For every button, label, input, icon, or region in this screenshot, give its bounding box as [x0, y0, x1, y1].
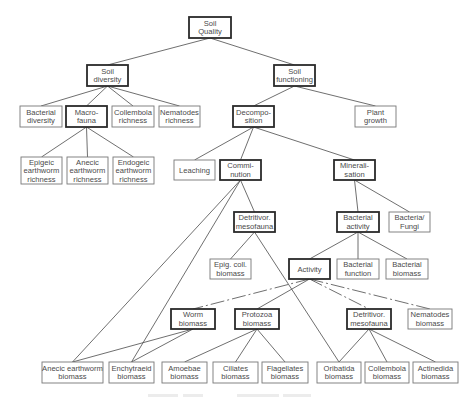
edge-soil-quality-to-soil-diversity — [108, 38, 211, 65]
node-macro-fauna: Macro-fauna — [66, 106, 107, 127]
node-collembola-richness: Collembolarichness — [112, 106, 154, 127]
node-leaching: Leaching — [174, 160, 215, 180]
node-epigeic-richness: Epigeicearthwormrichness — [21, 157, 62, 184]
node-bacterial-activity: Bacterialactivity — [337, 212, 379, 232]
edge-activity-to-detritivor-mesofauna-lower — [310, 279, 370, 309]
node-decomposition: Decompo-sition — [233, 106, 274, 127]
caption-text-illegible — [183, 394, 203, 397]
figure-caption — [148, 394, 311, 397]
soil-quality-diagram: SoilQualitySoildiversitySoilfunctioningB… — [0, 0, 474, 400]
node-label: fauna — [77, 116, 97, 125]
node-epig-coll-biomass: Epig. coll.biomass — [210, 259, 251, 279]
edge-macro-fauna-to-endogeic-richness — [87, 127, 134, 157]
node-enchytraeid-biomass: Enchytraeidbiomass — [109, 362, 154, 383]
node-label: mesofauna — [236, 222, 274, 231]
node-label: mesofauna — [350, 319, 388, 328]
edge-worm-biomass-to-enchytraeid-biomass — [132, 329, 194, 362]
edge-detritivor-mesofauna-upper-to-epig-coll-biomass — [231, 232, 255, 259]
node-worm-biomass: Wormbiomass — [171, 309, 215, 329]
node-label: biomass — [58, 372, 86, 381]
node-label: biomass — [271, 372, 299, 381]
node-soil-quality: SoilQuality — [189, 17, 231, 38]
node-layer: SoilQualitySoildiversitySoilfunctioningB… — [20, 17, 458, 383]
node-bacterial-biomass: Bacterialbiomass — [386, 259, 428, 279]
node-nematodes-richness: Nematodesrichness — [159, 106, 200, 127]
edge-detritivor-mesofauna-lower-to-oribatida-biomass — [339, 329, 369, 362]
node-nematodes-biomass: Nematodesbiomass — [408, 309, 452, 329]
node-label: richness — [119, 116, 147, 125]
edge-decomposition-to-leaching — [195, 127, 254, 160]
node-detritivor-mesofauna-lower: Detritivor.mesofauna — [347, 309, 391, 329]
edge-decomposition-to-comminution — [241, 127, 254, 160]
node-label: functioning — [276, 75, 313, 84]
node-plant-growth: Plantgrowth — [355, 106, 396, 127]
node-label: growth — [364, 116, 387, 125]
node-label: Activity — [297, 265, 321, 274]
edge-soil-diversity-to-nematodes-richness — [108, 86, 180, 106]
edge-activity-to-worm-biomass — [193, 279, 310, 309]
node-label: diversity — [27, 116, 55, 125]
node-mineralisation: Minerali-sation — [334, 160, 375, 180]
node-protozoa-biomass: Protozoabiomass — [235, 309, 279, 329]
edge-soil-functioning-to-plant-growth — [295, 86, 376, 106]
node-flagellates-biomass: Flagellatesbiomass — [262, 362, 308, 383]
edge-macro-fauna-to-epigeic-richness — [42, 127, 87, 157]
node-label: diversity — [94, 75, 122, 84]
edge-bacterial-activity-to-bacterial-biomass — [358, 232, 407, 259]
node-label: biomass — [179, 319, 207, 328]
edge-protozoa-biomass-to-flagellates-biomass — [257, 329, 285, 362]
node-actinedida-biomass: Actinedidabiomass — [413, 362, 458, 383]
node-label: biomass — [393, 269, 421, 278]
caption-text-illegible — [148, 394, 178, 397]
edge-detritivor-mesofauna-lower-to-collembola-biomass — [369, 329, 387, 362]
node-label: function — [345, 269, 372, 278]
edge-detritivor-mesofauna-upper-to-oribatida-biomass — [255, 232, 340, 362]
node-label: Leaching — [179, 166, 210, 175]
edge-soil-diversity-to-collembola-richness — [108, 86, 134, 106]
node-label: sation — [344, 170, 364, 179]
node-label: biomass — [325, 372, 353, 381]
node-label: nution — [230, 170, 251, 179]
node-label: biomass — [421, 372, 449, 381]
node-label: biomass — [416, 319, 444, 328]
node-label: Quality — [198, 27, 222, 36]
node-bacterial-function: Bacterialfunction — [337, 259, 379, 279]
caption-text-illegible — [283, 394, 311, 397]
node-soil-diversity: Soildiversity — [87, 65, 128, 86]
node-label: biomass — [221, 372, 249, 381]
node-label: activity — [346, 222, 369, 231]
node-label: sition — [245, 116, 263, 125]
edge-mineralisation-to-bacterial-activity — [355, 180, 359, 212]
node-label: biomass — [117, 372, 145, 381]
node-oribatida-biomass: Oribatidabiomass — [317, 362, 361, 383]
node-amoebae-biomass: Amoebaebiomass — [162, 362, 207, 383]
edge-activity-to-nematodes-biomass — [310, 279, 431, 309]
node-bacterial-diversity: Bacterialdiversity — [20, 106, 62, 127]
node-activity: Activity — [289, 259, 330, 279]
node-anecic-richness: Anecicearthwormrichness — [67, 157, 108, 184]
node-collembola-biomass: Collembolabiomass — [365, 362, 409, 383]
edge-bacterial-activity-to-activity — [310, 232, 359, 259]
node-endogeic-richness: Endogeicearthwormrichness — [113, 157, 154, 184]
node-label: Fungi — [400, 222, 419, 231]
node-ciliates-biomass: Ciliatesbiomass — [213, 362, 258, 383]
edge-worm-biomass-to-anecic-earthworm-biomass — [73, 329, 194, 362]
node-comminution: Commi-nution — [220, 160, 261, 180]
caption-text-illegible — [237, 394, 279, 397]
node-label: richness — [27, 175, 55, 184]
node-label: biomass — [243, 319, 271, 328]
edge-soil-functioning-to-decomposition — [254, 86, 295, 106]
node-detritivor-mesofauna-upper: Detritivor.mesofauna — [234, 212, 275, 232]
node-bacteria-fungi: Bacteria/Fungi — [389, 212, 430, 232]
node-label: richness — [165, 116, 193, 125]
node-label: richness — [73, 175, 101, 184]
edge-mineralisation-to-bacteria-fungi — [355, 180, 410, 212]
edge-comminution-to-detritivor-mesofauna-upper — [241, 180, 255, 212]
node-label: richness — [119, 175, 147, 184]
node-label: biomass — [373, 372, 401, 381]
edge-detritivor-mesofauna-lower-to-actinedida-biomass — [369, 329, 436, 362]
node-label: biomass — [170, 372, 198, 381]
node-anecic-earthworm-biomass: Anecic earthwormbiomass — [42, 362, 103, 383]
edge-decomposition-to-mineralisation — [254, 127, 355, 160]
edge-soil-quality-to-soil-functioning — [210, 38, 295, 65]
